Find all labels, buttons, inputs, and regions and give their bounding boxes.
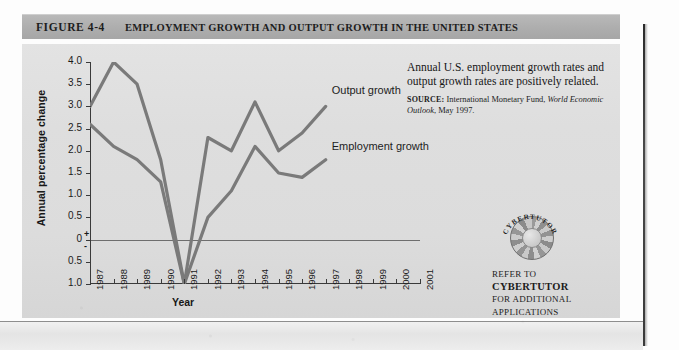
cybertutor-logo-icon: CYBERTUTOR xyxy=(502,212,558,264)
figure-panel: Annual percentage change 4.03.53.02.52.0… xyxy=(22,44,620,318)
y-tick-mark xyxy=(86,217,91,218)
cybertutor-caption: REFER TO CYBERTUTOR FOR ADDITIONAL APPLI… xyxy=(492,268,612,318)
x-tick-label: 1999 xyxy=(377,269,388,290)
source-note: SOURCE: International Monetary Fund, Wor… xyxy=(407,95,617,116)
cybertutor-arc-text: CYBERTUTOR xyxy=(502,212,558,264)
source-post: , May 1997. xyxy=(434,106,474,115)
source-label: SOURCE: xyxy=(407,95,444,104)
x-tick-label: 1995 xyxy=(283,269,294,290)
x-tick-label: 1997 xyxy=(330,269,341,290)
y-tick-mark xyxy=(86,129,91,130)
x-tick-label: 1990 xyxy=(165,269,176,290)
y-tick-mark xyxy=(86,151,91,152)
series-label-employment-growth: Employment growth xyxy=(332,140,429,152)
x-tick-mark xyxy=(114,279,115,284)
page-bottom-band xyxy=(0,321,643,350)
x-tick-label: 1994 xyxy=(259,269,270,290)
cybertutor-line-2: CYBERTUTOR xyxy=(492,281,612,294)
y-tick-mark xyxy=(86,284,91,285)
x-axis-title: Year xyxy=(172,296,194,308)
x-tick-label: 1998 xyxy=(353,269,364,290)
y-tick-mark xyxy=(86,195,91,196)
x-tick-label: 1992 xyxy=(212,269,223,290)
y-tick-label: 1.0 xyxy=(48,188,82,199)
y-tick-label: 3.0 xyxy=(48,99,82,110)
svg-text:CYBERTUTOR: CYBERTUTOR xyxy=(502,213,558,236)
cybertutor-line-1: REFER TO xyxy=(492,268,612,281)
x-tick-mark xyxy=(396,279,397,284)
y-tick-label: 1.5 xyxy=(48,166,82,177)
figure-title: EMPLOYMENT GROWTH AND OUTPUT GROWTH IN T… xyxy=(125,22,518,33)
x-tick-mark xyxy=(137,279,138,284)
y-tick-mark xyxy=(86,84,91,85)
x-tick-label: 1989 xyxy=(141,269,152,290)
series-line-output-growth xyxy=(90,62,326,284)
x-tick-label: 1988 xyxy=(118,269,129,290)
x-tick-label: 1987 xyxy=(94,269,105,290)
x-tick-label: 2001 xyxy=(424,269,435,290)
x-tick-label: 1991 xyxy=(188,269,199,290)
x-tick-mark xyxy=(231,279,232,284)
cybertutor-line-3: FOR ADDITIONAL xyxy=(492,293,612,306)
caption-block: Annual U.S. employment growth rates and … xyxy=(407,60,617,116)
cybertutor-block: CYBERTUTOR REFER TO CYBERTUTOR FOR ADDIT… xyxy=(492,212,612,318)
x-tick-mark xyxy=(208,279,209,284)
axis-sign-positive: + xyxy=(84,229,89,239)
y-tick-mark xyxy=(86,106,91,107)
x-tick-label: 1993 xyxy=(235,269,246,290)
axis-sign-negative: - xyxy=(84,241,87,251)
y-tick-label: 0 xyxy=(48,233,82,244)
y-tick-label: 0.5 xyxy=(48,210,82,221)
x-tick-mark xyxy=(326,279,327,284)
page-bottom-rule xyxy=(0,321,643,322)
figure-title-bar: FIGURE 4-4 EMPLOYMENT GROWTH AND OUTPUT … xyxy=(22,14,620,39)
y-tick-label: 4.0 xyxy=(48,55,82,66)
y-tick-label: 0.5 xyxy=(48,255,82,266)
cybertutor-line-4: APPLICATIONS xyxy=(492,306,612,319)
x-tick-label: 2000 xyxy=(400,269,411,290)
x-tick-mark xyxy=(420,279,421,284)
y-tick-label: 2.5 xyxy=(48,122,82,133)
y-axis-ticks: 4.03.53.02.52.01.51.00.500.51.0 xyxy=(38,44,82,318)
x-tick-mark xyxy=(90,279,91,284)
x-tick-mark xyxy=(255,279,256,284)
y-tick-label: 3.5 xyxy=(48,77,82,88)
x-tick-mark xyxy=(373,279,374,284)
y-tick-mark xyxy=(86,173,91,174)
x-tick-mark xyxy=(184,279,185,284)
x-tick-mark xyxy=(279,279,280,284)
x-tick-mark xyxy=(349,279,350,284)
y-tick-mark xyxy=(86,262,91,263)
series-line-employment-growth xyxy=(90,124,326,284)
x-tick-mark xyxy=(161,279,162,284)
y-tick-mark xyxy=(86,62,91,63)
figure-number: FIGURE 4-4 xyxy=(36,21,105,33)
caption-text: Annual U.S. employment growth rates and … xyxy=(407,60,617,88)
source-pre: International Monetary Fund, xyxy=(444,95,547,104)
scanned-page: FIGURE 4-4 EMPLOYMENT GROWTH AND OUTPUT … xyxy=(0,0,679,350)
series-label-output-growth: Output growth xyxy=(332,84,401,96)
x-tick-mark xyxy=(302,279,303,284)
chart: Annual percentage change 4.03.53.02.52.0… xyxy=(22,44,442,318)
page-right-edge-shadow xyxy=(645,24,648,346)
x-tick-label: 1996 xyxy=(306,269,317,290)
y-tick-label: 2.0 xyxy=(48,144,82,155)
y-tick-label: 1.0 xyxy=(48,277,82,288)
